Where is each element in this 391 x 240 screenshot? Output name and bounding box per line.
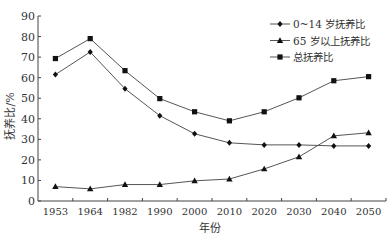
square-marker bbox=[122, 68, 127, 73]
y-tick-label: 70 bbox=[21, 51, 35, 64]
triangle-marker bbox=[296, 154, 302, 160]
x-tick-label: 2010 bbox=[217, 206, 242, 217]
square-marker bbox=[53, 56, 58, 61]
line-chart: 0102030405060708090195319641982199020002… bbox=[0, 0, 391, 240]
x-tick-label: 2030 bbox=[286, 206, 311, 217]
diamond-marker bbox=[366, 143, 371, 149]
x-tick-label: 2020 bbox=[251, 206, 276, 217]
y-tick-label: 40 bbox=[21, 113, 35, 126]
square-marker bbox=[296, 95, 301, 100]
legend-label: 总抚养比 bbox=[293, 51, 333, 63]
series-line bbox=[55, 133, 368, 189]
diamond-marker bbox=[277, 21, 282, 27]
legend-item: 0~14 岁抚养比 bbox=[270, 18, 365, 30]
series-diamond bbox=[53, 49, 371, 149]
x-tick-label: 2050 bbox=[356, 206, 381, 217]
diamond-marker bbox=[227, 140, 232, 146]
square-marker bbox=[331, 78, 336, 83]
square-marker bbox=[88, 36, 93, 41]
y-tick-label: 20 bbox=[21, 154, 35, 167]
y-axis-label: 抚养比/% bbox=[3, 92, 17, 139]
square-marker bbox=[277, 54, 282, 59]
triangle-marker bbox=[365, 129, 371, 135]
legend-item: 总抚养比 bbox=[270, 51, 333, 63]
series-line bbox=[55, 52, 368, 146]
diamond-marker bbox=[53, 72, 58, 78]
x-tick-label: 2000 bbox=[182, 206, 207, 217]
legend-label: 0~14 岁抚养比 bbox=[293, 18, 365, 30]
x-axis-label: 年份 bbox=[199, 221, 221, 235]
x-tick-label: 1990 bbox=[147, 206, 172, 217]
y-tick-label: 30 bbox=[21, 133, 35, 146]
y-tick-label: 50 bbox=[21, 92, 35, 105]
y-tick-label: 10 bbox=[21, 174, 35, 187]
diamond-marker bbox=[262, 142, 267, 148]
square-marker bbox=[262, 109, 267, 114]
triangle-marker bbox=[52, 183, 58, 189]
legend-item: 65 岁以上抚养比 bbox=[270, 35, 370, 47]
x-tick-label: 1982 bbox=[112, 206, 137, 217]
square-marker bbox=[366, 74, 371, 79]
x-tick-label: 1964 bbox=[77, 206, 102, 217]
x-tick-label: 2040 bbox=[321, 206, 346, 217]
y-tick-label: 60 bbox=[21, 72, 35, 85]
legend-label: 65 岁以上抚养比 bbox=[293, 35, 370, 47]
square-marker bbox=[227, 118, 232, 123]
chart-legend: 0~14 岁抚养比65 岁以上抚养比总抚养比 bbox=[270, 18, 370, 63]
square-marker bbox=[157, 96, 162, 101]
diamond-marker bbox=[157, 113, 162, 119]
diamond-marker bbox=[296, 142, 301, 148]
y-tick-label: 80 bbox=[21, 31, 35, 44]
series-square bbox=[53, 36, 371, 123]
y-tick-label: 0 bbox=[28, 195, 35, 208]
y-tick-label: 90 bbox=[21, 10, 35, 23]
diamond-marker bbox=[192, 131, 197, 137]
square-marker bbox=[192, 109, 197, 114]
x-tick-label: 1953 bbox=[43, 206, 68, 217]
diamond-marker bbox=[331, 143, 336, 149]
